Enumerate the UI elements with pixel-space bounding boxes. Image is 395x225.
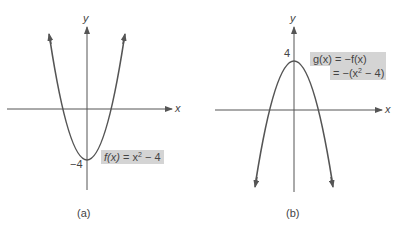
panel-b-right-arrow: [331, 177, 333, 187]
panel-a-graph: [7, 27, 172, 190]
panel-b-caption: (b): [286, 207, 299, 219]
panel-a-fn-rhs: = x: [123, 151, 138, 163]
panel-b-y-axis-label: y: [290, 12, 296, 24]
panel-b-function-label-line2: = −(x2 − 4): [330, 66, 386, 80]
panel-a-y-axis-label: y: [83, 12, 89, 24]
panel-b-fn-line1: g(x) = −f(x): [313, 53, 367, 65]
panel-a-left-arrow: [49, 34, 51, 44]
panel-b-function-label-line1: g(x) = −f(x): [310, 52, 386, 66]
panel-a-function-label: f(x) = x2 − 4: [101, 150, 164, 164]
panel-a-right-arrow: [123, 34, 125, 44]
panel-b-x-axis-label: x: [385, 103, 391, 115]
panel-b-fn-line2: = −(x: [333, 67, 358, 79]
diagram-canvas: [0, 0, 395, 225]
panel-b-y-intercept-label: 4: [284, 47, 290, 59]
panel-a-x-axis-label: x: [175, 102, 181, 114]
panel-b-fn-suffix: − 4): [362, 67, 384, 79]
panel-a-y-intercept-label: −4: [70, 158, 83, 170]
panel-b-left-arrow: [255, 177, 257, 187]
panel-a-caption: (a): [77, 207, 90, 219]
panel-a-fn-lhs: f(x): [104, 151, 120, 163]
panel-a-fn-suffix: − 4: [142, 151, 161, 163]
